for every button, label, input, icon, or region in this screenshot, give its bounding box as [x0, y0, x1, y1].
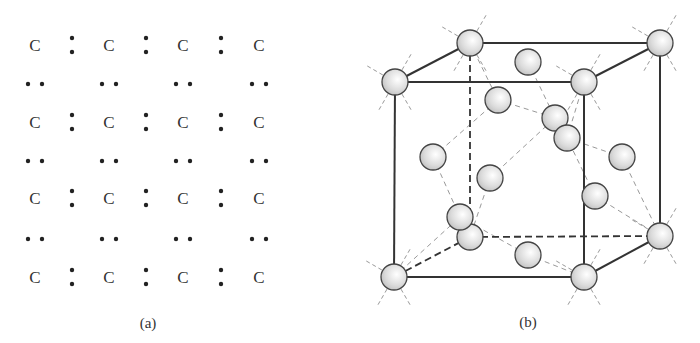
electron-dot [250, 237, 254, 241]
carbon-atom-symbol: C [177, 268, 188, 287]
electron-dot [70, 113, 74, 117]
bond-guide-line [379, 94, 389, 110]
bond-guide-line [441, 27, 457, 37]
panel-b-diamond-lattice [365, 14, 676, 305]
electron-dot [219, 203, 223, 207]
bond-guide-line [591, 94, 601, 110]
carbon-atom-symbol: C [177, 189, 188, 208]
electron-dot [70, 268, 74, 272]
carbon-atom-sphere [457, 30, 483, 56]
bond-guide-line [401, 248, 411, 264]
bond-guide-line [366, 66, 382, 76]
bond-guide-line [454, 55, 464, 71]
bond-guide-line [477, 14, 487, 30]
electron-dot [144, 189, 148, 193]
electron-dot [100, 237, 104, 241]
hidden-cube-edge [470, 236, 660, 237]
electron-dot [144, 36, 148, 40]
carbon-atom-symbol: C [29, 113, 40, 132]
carbon-atom-symbol: C [29, 36, 40, 55]
carbon-atom-symbol: C [29, 189, 40, 208]
carbon-atom-symbol: C [103, 36, 114, 55]
electron-dot [100, 159, 104, 163]
electron-dot [264, 237, 268, 241]
bond-guide-line [644, 248, 654, 264]
electron-dot [144, 127, 148, 131]
carbon-atom-sphere [582, 183, 608, 209]
bond-guide-line [402, 53, 412, 69]
electron-dot [70, 203, 74, 207]
electron-dot [188, 159, 192, 163]
electron-dot [219, 113, 223, 117]
carbon-atom-sphere [382, 69, 408, 95]
bond-guide-line [591, 289, 601, 305]
electron-dot [114, 237, 118, 241]
electron-dot [144, 282, 148, 286]
bond-guide-line [378, 289, 388, 305]
bond-guide-line [568, 289, 578, 305]
carbon-atom-sphere [515, 242, 541, 268]
carbon-atom-symbol: C [177, 36, 188, 55]
electron-dot [40, 159, 44, 163]
carbon-atom-sphere [571, 264, 597, 290]
electron-dot [219, 268, 223, 272]
carbon-atom-symbol: C [253, 189, 264, 208]
carbon-atom-sphere [554, 125, 580, 151]
bond-guide-line [365, 261, 381, 271]
carbon-atom-symbol: C [177, 113, 188, 132]
carbon-atom-sphere [485, 87, 511, 113]
electron-dot [26, 159, 30, 163]
electron-dot [264, 82, 268, 86]
bond-guide-line [667, 55, 677, 71]
carbon-atom-sphere [571, 69, 597, 95]
bond-guide-line [667, 207, 677, 223]
bond-guide-line [402, 94, 412, 110]
electron-dot [70, 36, 74, 40]
electron-dot [70, 127, 74, 131]
electron-dot [70, 282, 74, 286]
electron-dot [219, 127, 223, 131]
electron-dot [70, 189, 74, 193]
electron-dot [219, 36, 223, 40]
electron-dot [40, 82, 44, 86]
bond-guide-line [591, 53, 601, 69]
electron-dot [174, 82, 178, 86]
bond-guide-line [631, 220, 647, 230]
carbon-atom-sphere [647, 223, 673, 249]
carbon-atom-sphere [609, 144, 635, 170]
panel-a-lewis-structure: CCCCCCCCCCCCCCCC [26, 36, 268, 287]
carbon-atom-sphere [477, 165, 503, 191]
electron-dot [26, 237, 30, 241]
electron-dot [144, 268, 148, 272]
carbon-atom-sphere [420, 144, 446, 170]
electron-dot [144, 50, 148, 54]
electron-dot [250, 159, 254, 163]
electron-dot [70, 50, 74, 54]
electron-dot [250, 82, 254, 86]
carbon-atom-sphere [647, 30, 673, 56]
electron-dot [219, 189, 223, 193]
panel-b-label: (b) [519, 314, 537, 331]
bond-guide-line [401, 289, 411, 305]
carbon-atom-symbol: C [103, 189, 114, 208]
electron-dot [114, 82, 118, 86]
carbon-atom-sphere [515, 49, 541, 75]
electron-dot [174, 159, 178, 163]
carbon-atom-symbol: C [103, 268, 114, 287]
electron-dot [188, 237, 192, 241]
bond-guide-line [555, 66, 571, 76]
electron-dot [114, 159, 118, 163]
carbon-atom-symbol: C [253, 268, 264, 287]
bond-guide-line [667, 248, 677, 264]
bond-guide-line [477, 55, 487, 71]
electron-dot [144, 203, 148, 207]
bond-guide-line [591, 248, 601, 264]
figure-canvas: CCCCCCCCCCCCCCCC (a) (b) [0, 0, 700, 343]
cube-edge [394, 82, 395, 277]
electron-dot [219, 50, 223, 54]
electron-dot [144, 113, 148, 117]
carbon-atom-symbol: C [253, 113, 264, 132]
bond-guide-line [667, 14, 677, 30]
electron-dot [100, 82, 104, 86]
bond-guide-line [631, 27, 647, 37]
